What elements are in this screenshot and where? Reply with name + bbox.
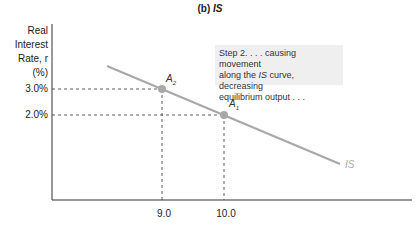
- annotation-box: Step 2. . . . causing movement along the…: [215, 45, 343, 85]
- point-a1: [220, 111, 228, 119]
- plot-area: [0, 0, 420, 228]
- x-tick-10: 10.0: [216, 208, 235, 219]
- x-tick-9: 9.0: [157, 208, 171, 219]
- label-a2: A2: [166, 73, 176, 86]
- point-a2: [158, 85, 166, 93]
- y-tick-2: 2.0%: [25, 109, 48, 120]
- y-tick-3: 3.0%: [25, 83, 48, 94]
- is-curve-label: IS: [345, 159, 354, 170]
